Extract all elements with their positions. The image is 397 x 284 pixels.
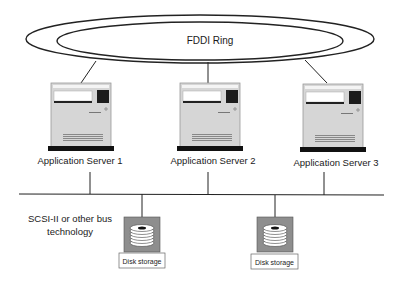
disk-label: Disk storage [255,259,294,267]
server-label: Application Server 2 [170,155,255,166]
disk-storage-2: Disk storage [251,217,298,269]
server-icon [48,83,114,151]
bus-label-line2: technology [47,226,93,237]
ring-link-3 [305,60,327,83]
ring-label: FDDI Ring [187,35,234,46]
disk-icon [124,217,160,252]
ring-link-1 [81,61,96,83]
fddi-ring: FDDI Ring [26,15,374,63]
application-server-1: Application Server 1 [37,83,122,166]
scsi-bus: SCSI-II or other bus technology [19,172,384,237]
server-icon [300,84,366,152]
application-server-2: Application Server 2 [170,83,255,166]
bus-label-line1: SCSI-II or other bus [28,213,112,224]
disk-label: Disk storage [123,258,162,266]
bus-line [19,194,384,195]
application-server-3: Application Server 3 [293,84,378,168]
disk-storage-1: Disk storage [119,217,165,268]
server-icon [177,83,243,151]
network-diagram: FDDI Ring Application Server 1 Applicati… [0,0,397,284]
disk-icon [257,217,293,252]
server-label: Application Server 1 [37,155,122,166]
server-label: Application Server 3 [293,157,378,168]
